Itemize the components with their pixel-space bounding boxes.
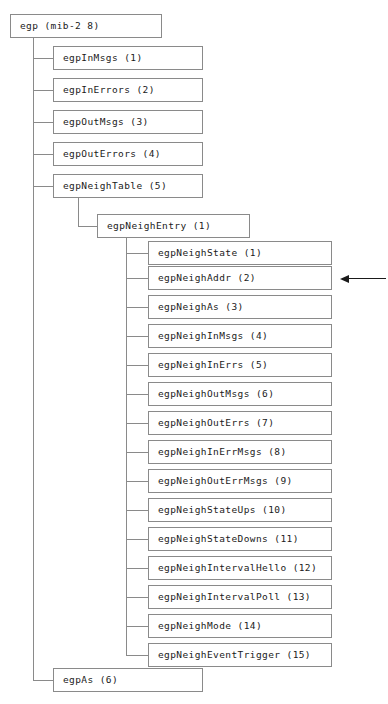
node-level2[interactable]: egpOutErrors (4) (53, 142, 203, 166)
connector-entry-leaf-12 (126, 597, 148, 598)
node-leaf[interactable]: egpNeighInErrs (5) (148, 353, 332, 377)
node-level2[interactable]: egpInMsgs (1) (53, 46, 203, 70)
node-leaf[interactable]: egpNeighOutErrMsgs (9) (148, 469, 332, 493)
node-leaf[interactable]: egpNeighMode (14) (148, 614, 332, 638)
connector-entry-leaf-14 (126, 655, 148, 656)
node-leaf[interactable]: egpNeighInErrMsgs (8) (148, 440, 332, 464)
node-leaf[interactable]: egpNeighIntervalPoll (13) (148, 585, 332, 609)
table-trunk (78, 198, 79, 226)
connector-root-child-3 (33, 154, 53, 155)
node-leaf[interactable]: egpNeighEventTrigger (15) (148, 643, 332, 667)
connector-entry-leaf-0 (126, 253, 148, 254)
node-root[interactable]: egp (mib-2 8) (10, 14, 162, 38)
connector-root-child-5 (33, 680, 53, 681)
node-leaf[interactable]: egpNeighStateUps (10) (148, 498, 332, 522)
connector-entry-leaf-11 (126, 568, 148, 569)
connector-root-child-4 (33, 186, 53, 187)
connector-root-child-0 (33, 58, 53, 59)
connector-entry-leaf-10 (126, 539, 148, 540)
connector-table-entry (78, 226, 97, 227)
connector-entry-leaf-2 (126, 307, 148, 308)
connector-entry-leaf-4 (126, 365, 148, 366)
connector-entry-leaf-8 (126, 481, 148, 482)
connector-entry-leaf-1 (126, 278, 148, 279)
entry-trunk (126, 238, 127, 655)
node-leaf[interactable]: egpNeighState (1) (148, 241, 332, 265)
node-leaf[interactable]: egpNeighIntervalHello (12) (148, 556, 332, 580)
connector-entry-leaf-5 (126, 394, 148, 395)
mib-tree-diagram: egp (mib-2 8)egpInMsgs (1)egpInErrors (2… (0, 0, 388, 704)
node-leaf[interactable]: egpNeighAs (3) (148, 295, 332, 319)
node-leaf[interactable]: egpNeighInMsgs (4) (148, 324, 332, 348)
node-level2[interactable]: egpOutMsgs (3) (53, 110, 203, 134)
connector-entry-leaf-9 (126, 510, 148, 511)
root-trunk (33, 38, 34, 680)
node-leaf[interactable]: egpNeighStateDowns (11) (148, 527, 332, 551)
connector-entry-leaf-6 (126, 423, 148, 424)
connector-root-child-1 (33, 90, 53, 91)
connector-root-child-2 (33, 122, 53, 123)
node-level2[interactable]: egpAs (6) (53, 668, 203, 692)
node-leaf[interactable]: egpNeighOutErrs (7) (148, 411, 332, 435)
connector-entry-leaf-3 (126, 336, 148, 337)
node-leaf[interactable]: egpNeighOutMsgs (6) (148, 382, 332, 406)
connector-entry-leaf-7 (126, 452, 148, 453)
node-level2[interactable]: egpNeighTable (5) (53, 174, 203, 198)
pointer-arrow-head (340, 275, 349, 283)
node-leaf[interactable]: egpNeighAddr (2) (148, 266, 332, 290)
node-level2[interactable]: egpInErrors (2) (53, 78, 203, 102)
pointer-arrow-line (347, 278, 386, 279)
node-entry[interactable]: egpNeighEntry (1) (97, 214, 250, 238)
connector-entry-leaf-13 (126, 626, 148, 627)
